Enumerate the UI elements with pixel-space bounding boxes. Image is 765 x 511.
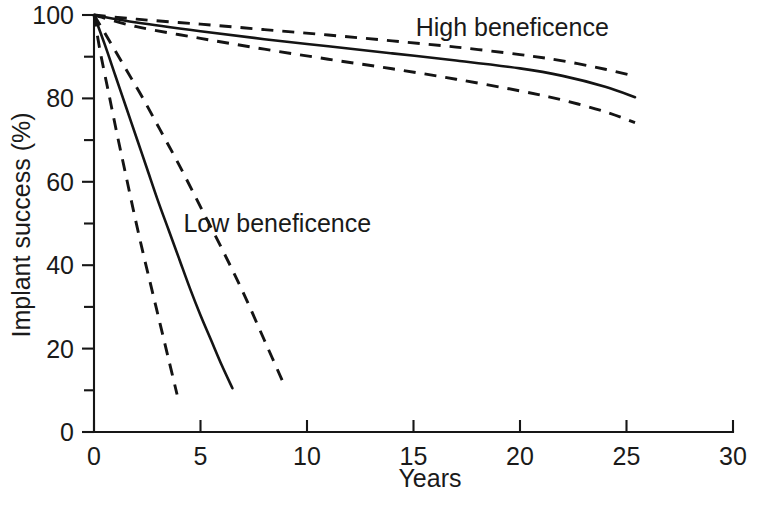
x-axis-major-ticks xyxy=(94,420,733,432)
y-axis-title: Implant success (%) xyxy=(7,112,35,337)
x-tick-label-5: 5 xyxy=(194,442,208,470)
annotation-low-beneficence: Low beneficence xyxy=(183,209,371,237)
annotation-high-beneficence: High beneficence xyxy=(416,13,609,41)
y-tick-label-0: 0 xyxy=(60,418,74,446)
x-tick-label-25: 25 xyxy=(613,442,641,470)
y-axis-tick-labels: 020406080100 xyxy=(32,1,74,446)
x-tick-label-0: 0 xyxy=(87,442,101,470)
x-tick-label-10: 10 xyxy=(293,442,321,470)
series-curve-low-beneficence-upper-ci xyxy=(94,15,286,388)
y-tick-label-60: 60 xyxy=(46,168,74,196)
chart-figure: 020406080100 051015202530 High beneficen… xyxy=(0,0,765,511)
y-axis-minor-ticks xyxy=(84,57,94,391)
x-tick-label-30: 30 xyxy=(719,442,747,470)
x-axis-title: Years xyxy=(398,464,461,492)
y-tick-label-40: 40 xyxy=(46,251,74,279)
x-tick-label-20: 20 xyxy=(506,442,534,470)
y-tick-label-80: 80 xyxy=(46,84,74,112)
data-series-group xyxy=(94,15,635,394)
y-tick-label-100: 100 xyxy=(32,1,74,29)
implant-success-line-chart: 020406080100 051015202530 High beneficen… xyxy=(0,0,765,511)
series-curve-low-beneficence-lower-ci xyxy=(94,15,177,394)
y-tick-label-20: 20 xyxy=(46,335,74,363)
